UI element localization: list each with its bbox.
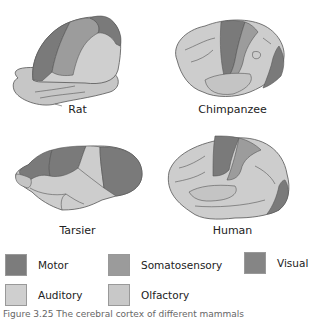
- legend-swatch-auditory: [5, 284, 27, 306]
- legend-swatch-visual: [244, 252, 266, 274]
- panel-label-chimpanzee: Chimpanzee: [155, 103, 310, 116]
- legend-item-visual: Visual: [244, 252, 308, 274]
- legend-label-olfactory: Olfactory: [141, 289, 189, 301]
- panel-chimpanzee: Chimpanzee: [155, 0, 310, 125]
- panel-label-tarsier: Tarsier: [0, 224, 155, 237]
- figure-caption: Figure 3.25 The cerebral cortex of diffe…: [3, 309, 244, 319]
- legend-swatch-somatosensory: [108, 254, 130, 276]
- legend-label-motor: Motor: [38, 259, 68, 271]
- panel-label-human: Human: [155, 224, 310, 237]
- legend-label-visual: Visual: [277, 257, 308, 269]
- panel-label-rat: Rat: [0, 103, 155, 116]
- legend-item-somatosensory: Somatosensory: [108, 254, 222, 276]
- legend-item-motor: Motor: [5, 254, 68, 276]
- panel-rat: Rat: [0, 0, 155, 125]
- legend-label-auditory: Auditory: [38, 289, 83, 301]
- legend-label-somatosensory: Somatosensory: [141, 259, 222, 271]
- legend-item-olfactory: Olfactory: [108, 284, 189, 306]
- legend-item-auditory: Auditory: [5, 284, 83, 306]
- panel-human: Human: [155, 130, 310, 250]
- panel-tarsier: Tarsier: [0, 130, 155, 250]
- legend-swatch-olfactory: [108, 284, 130, 306]
- legend-swatch-motor: [5, 254, 27, 276]
